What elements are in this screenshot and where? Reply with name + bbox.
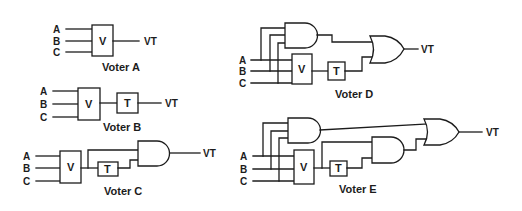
tap-c-to-and [279,138,288,181]
input-b-label: B [239,66,246,77]
voter-b-circuit: A B C V T VT Voter B [40,86,178,133]
input-a-label: A [240,151,247,162]
input-a-label: A [40,86,47,97]
wire-and-to-or [317,35,374,42]
input-b-label: B [40,99,47,110]
voter-circuits-diagram: A B C V VT Voter A A B C V T VT Voter B … [0,0,522,211]
input-c-label: C [239,78,246,89]
voter-b-caption: Voter B [103,121,141,133]
wire-t-to-or [345,57,374,71]
voter-block-v-label: V [300,161,308,173]
input-b-label: B [23,163,30,174]
voter-block-v-label: V [298,63,306,75]
input-b-label: B [240,164,247,175]
voter-block-v-label: V [67,161,75,173]
voter-e-circuit: A B C V T VT Voter E [240,118,499,195]
input-c-label: C [40,112,47,123]
voter-d-circuit: A B C V T VT Voter D [239,23,434,100]
tap-a-to-and [261,28,285,60]
tap-a-to-and [263,123,288,156]
wire-t-to-and [118,160,138,168]
output-vt-label: VT [165,98,178,109]
output-vt-label: VT [203,148,216,159]
wire-and-top-to-or [320,124,428,130]
tap-c-to-and [278,43,285,83]
input-a-label: A [53,24,60,35]
or-gate [424,119,459,145]
voter-block-v-label: V [85,98,93,110]
timer-block-t-label: T [124,97,131,109]
voter-e-caption: Voter E [339,183,377,195]
wire-t-to-and2 [347,158,372,168]
voter-block-v-label: V [99,35,107,47]
timer-block-t-label: T [104,163,111,175]
input-c-label: C [53,47,60,58]
timer-block-t-label: T [333,65,340,77]
and-gate [138,141,170,166]
input-b-label: B [53,36,60,47]
timer-block-t-label: T [335,162,342,174]
voter-d-caption: Voter D [335,88,373,100]
or-gate [370,36,404,63]
and-gate-bottom [372,137,404,163]
voter-c-circuit: A B C V T VT Voter C [23,141,216,197]
input-c-label: C [23,176,30,187]
and-gate [285,23,318,48]
input-a-label: A [23,151,30,162]
input-a-label: A [239,55,246,66]
voter-a-caption: Voter A [102,61,140,73]
output-vt-label: VT [144,36,157,47]
voter-c-caption: Voter C [104,185,142,197]
output-vt-label: VT [421,44,434,55]
and-gate-top [288,118,321,143]
voter-a-circuit: A B C V VT Voter A [53,24,157,73]
output-vt-label: VT [486,127,499,138]
input-c-label: C [240,176,247,187]
